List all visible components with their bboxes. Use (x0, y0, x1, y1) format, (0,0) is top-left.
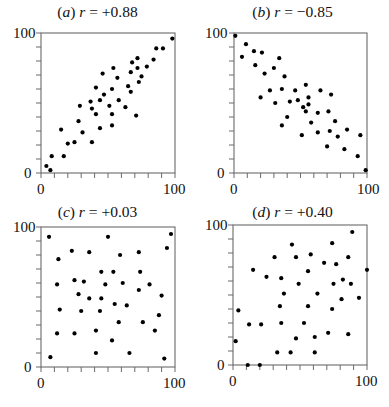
data-point (356, 154, 360, 158)
data-point (87, 296, 91, 300)
data-point (328, 129, 332, 133)
x-axis-min-label: 0 (230, 182, 238, 197)
data-point (279, 321, 283, 325)
data-point (280, 87, 284, 91)
data-point (137, 250, 141, 254)
data-point (130, 60, 134, 64)
axis-ticks (36, 33, 175, 178)
data-point (342, 147, 346, 151)
plot-frame (233, 225, 367, 365)
y-axis-max-label: 100 (13, 220, 36, 235)
data-point (302, 321, 306, 325)
data-point (329, 93, 333, 97)
data-point (330, 307, 334, 311)
axis-ticks (36, 227, 175, 372)
data-point (76, 292, 80, 296)
data-point (272, 255, 276, 259)
data-point (296, 98, 300, 102)
x-axis-min-label: 0 (37, 376, 45, 391)
x-axis-max-label: 100 (355, 374, 378, 389)
data-point (240, 55, 244, 59)
data-point (59, 128, 63, 132)
x-axis-min-label: 0 (37, 182, 45, 197)
plot-frame (234, 33, 367, 173)
data-point (107, 104, 111, 108)
data-point (115, 76, 119, 80)
data-point (290, 243, 294, 247)
y-axis-max-label: 100 (13, 26, 36, 41)
data-point (304, 83, 308, 87)
data-point (365, 268, 369, 272)
data-point (282, 74, 286, 78)
axis-ticks (228, 225, 367, 370)
y-axis-min-label: 0 (217, 166, 225, 181)
data-point (72, 331, 76, 335)
data-point (157, 313, 161, 317)
data-point (94, 351, 98, 355)
data-point (72, 140, 76, 144)
plot-frame (41, 227, 175, 367)
data-points (233, 34, 368, 173)
axis-ticks (229, 33, 367, 178)
data-point (346, 255, 350, 259)
data-point (110, 338, 114, 342)
data-point (306, 304, 310, 308)
data-point (258, 363, 262, 367)
data-point (330, 241, 334, 245)
data-point (50, 154, 54, 158)
data-point (90, 107, 94, 111)
data-point (153, 329, 157, 333)
data-point (264, 275, 268, 279)
data-point (111, 270, 115, 274)
data-point (346, 332, 350, 336)
data-point (147, 282, 151, 286)
data-point (358, 133, 362, 137)
data-point (94, 86, 98, 90)
data-point (301, 105, 305, 109)
data-point (106, 235, 110, 239)
data-point (141, 320, 145, 324)
data-point (55, 282, 59, 286)
data-point (151, 58, 155, 62)
data-point (282, 292, 286, 296)
data-point (293, 88, 297, 92)
data-point (325, 144, 329, 148)
y-axis-max-label: 100 (205, 26, 228, 41)
data-point (110, 123, 114, 127)
data-point (78, 104, 82, 108)
scatter-panel-d: (d) r = +0.40 100 0 0 100 (195, 200, 389, 400)
x-axis-max-label: 100 (357, 182, 380, 197)
data-point (252, 49, 256, 53)
data-point (55, 331, 59, 335)
data-point (234, 339, 238, 343)
data-point (313, 335, 317, 339)
data-point (139, 74, 143, 78)
data-point (79, 309, 83, 313)
data-point (118, 253, 122, 257)
data-point (259, 322, 263, 326)
data-point (137, 80, 141, 84)
data-point (309, 121, 313, 125)
data-point (160, 294, 164, 298)
data-point (82, 280, 86, 284)
data-point (88, 100, 92, 104)
y-axis-max-label: 100 (205, 218, 228, 233)
data-point (58, 308, 62, 312)
data-point (117, 320, 121, 324)
scatter-panel-b: (b) r = −0.85 100 0 0 100 (195, 0, 389, 200)
data-point (56, 257, 60, 261)
data-point (113, 302, 117, 306)
data-point (306, 95, 310, 99)
data-point (253, 63, 257, 67)
data-point (161, 46, 165, 50)
data-point (322, 261, 326, 265)
data-point (316, 130, 320, 134)
data-point (80, 130, 84, 134)
data-point (98, 309, 102, 313)
y-axis-min-label: 0 (217, 358, 225, 373)
scatter-panel-c: (c) r = +0.03 100 0 0 100 (0, 200, 195, 400)
data-point (309, 252, 313, 256)
data-point (165, 246, 169, 250)
data-point (123, 105, 127, 109)
scatter-panel-a: (a) r = +0.88 100 0 0 100 (0, 0, 195, 200)
